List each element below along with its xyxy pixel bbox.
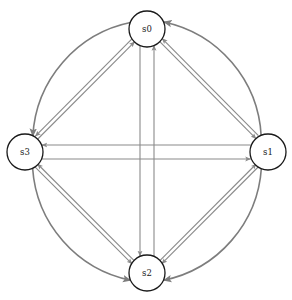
edge-s2-to-s3[interactable] <box>38 164 135 261</box>
nodes-group: s0 s1 s2 s3 <box>7 11 286 291</box>
node-s0[interactable]: s0 <box>129 11 165 47</box>
edge-s3-to-s2-chord[interactable] <box>35 167 132 264</box>
node-s2[interactable]: s2 <box>129 255 165 291</box>
edge-s1-to-s0[interactable] <box>164 22 261 136</box>
edge-s2-to-s1[interactable] <box>160 164 257 261</box>
edge-s0-to-s1[interactable] <box>160 42 256 139</box>
curved-edges-group <box>33 22 262 280</box>
edge-s1-to-s2-chord[interactable] <box>162 167 258 264</box>
node-s3-label: s3 <box>20 147 30 157</box>
graph-svg: s0 s1 s2 s3 <box>0 0 292 300</box>
edge-s3-to-s0[interactable] <box>38 42 135 139</box>
vertical-edges-group <box>140 46 154 257</box>
diagonal-edges-group <box>35 39 258 264</box>
edge-s0-to-s3[interactable] <box>33 22 132 136</box>
edge-s1-to-s2[interactable] <box>164 168 262 280</box>
horizontal-edges-group <box>42 145 251 159</box>
edge-s0-to-s3-chord[interactable] <box>35 39 132 137</box>
node-s1[interactable]: s1 <box>250 134 286 170</box>
node-s3[interactable]: s3 <box>7 134 43 170</box>
edge-s1-to-s0-chord[interactable] <box>162 39 258 136</box>
node-s0-label: s0 <box>142 24 152 34</box>
state-diagram-canvas: s0 s1 s2 s3 <box>0 0 292 300</box>
node-s1-label: s1 <box>263 147 273 157</box>
edge-s3-to-s2[interactable] <box>33 168 131 280</box>
node-s2-label: s2 <box>142 268 152 278</box>
